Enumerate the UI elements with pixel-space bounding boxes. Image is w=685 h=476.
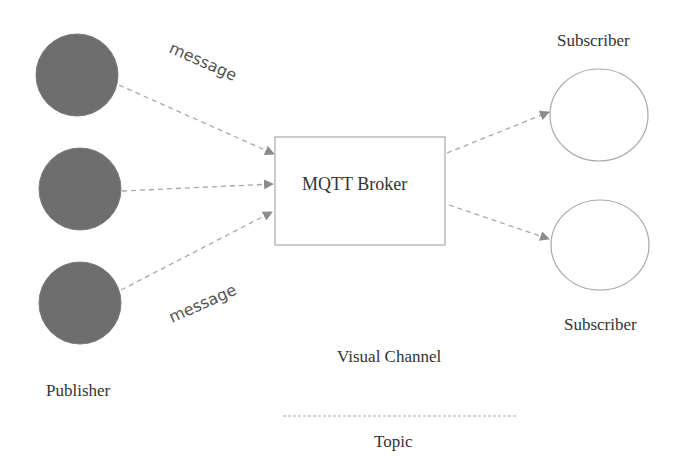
subscriber-node-2 (551, 200, 649, 290)
subscriber-label-top: Subscriber (557, 31, 630, 50)
subscriber-label-bottom: Subscriber (564, 315, 637, 334)
edge-label-message-bottom: message (166, 280, 239, 327)
arrow-publisher-3-to-broker (121, 212, 272, 290)
publisher-node-2 (39, 148, 121, 230)
mqtt-diagram: message message MQTT Broker Subscriber S… (0, 0, 685, 476)
subscriber-node-1 (550, 69, 648, 161)
arrow-publisher-2-to-broker (122, 184, 273, 191)
publisher-label: Publisher (46, 381, 111, 400)
mqtt-broker-label: MQTT Broker (302, 174, 407, 194)
publisher-node-1 (36, 34, 118, 116)
arrow-publisher-1-to-broker (119, 85, 274, 154)
arrow-broker-to-subscriber-2 (449, 205, 549, 239)
arrow-broker-to-subscriber-1 (447, 112, 549, 153)
topic-label: Topic (374, 432, 413, 451)
edge-label-message-top: message (166, 38, 239, 85)
visual-channel-label: Visual Channel (337, 347, 442, 366)
publisher-node-3 (39, 262, 121, 344)
